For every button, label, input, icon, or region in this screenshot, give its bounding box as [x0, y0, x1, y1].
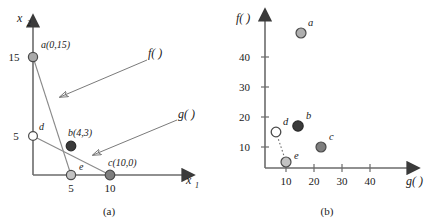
point-label-c-a: c(10,0) — [108, 157, 137, 169]
f-annotation-label: f( ) — [148, 46, 162, 60]
point-label-d-b: d — [283, 116, 289, 127]
point-b-a[interactable] — [66, 141, 76, 151]
point-a-a[interactable] — [28, 52, 37, 61]
y-axis-label-sub-a: 2 — [27, 19, 31, 28]
point-label-d-a: d — [39, 121, 45, 132]
point-b-b[interactable] — [293, 121, 303, 131]
y-tick-30-b: 30 — [239, 81, 251, 93]
point-d-b[interactable] — [271, 127, 281, 137]
y-axis-label-a: x — [16, 11, 23, 25]
point-label-c-b: c — [329, 131, 334, 142]
g-annotation-arrow — [93, 120, 177, 155]
x-tick-20-b: 20 — [309, 175, 321, 187]
point-label-e-b: e — [294, 150, 299, 161]
y-tick-20-b: 20 — [239, 111, 251, 123]
y-tick-15-a: 15 — [9, 51, 21, 63]
point-label-b-a: b(4,3) — [68, 127, 93, 139]
figure-container: x 2 x 1 15 5 5 10 f( ) g( ) — [0, 0, 436, 220]
panel-a-plot: x 2 x 1 15 5 5 10 f( ) g( ) — [0, 0, 218, 200]
point-label-a-a: a(0,15) — [41, 39, 71, 51]
y-axis-label-b: f( ) — [236, 11, 250, 25]
x-tick-40-b: 40 — [365, 175, 377, 187]
point-a-b[interactable] — [296, 28, 306, 38]
panel-a-caption: (a) — [0, 205, 218, 217]
panel-b-caption: (b) — [218, 205, 436, 217]
panel-b: f( ) g( ) 10 20 30 40 10 20 30 40 — [218, 0, 436, 220]
point-label-e-a: e — [79, 161, 84, 172]
x-tick-10-a: 10 — [105, 182, 117, 194]
panel-a: x 2 x 1 15 5 5 10 f( ) g( ) — [0, 0, 218, 220]
x-tick-5-a: 5 — [68, 182, 74, 194]
f-constraint-line — [33, 57, 71, 175]
point-e-b[interactable] — [281, 157, 291, 167]
point-e-a[interactable] — [66, 170, 75, 179]
x-tick-30-b: 30 — [337, 175, 349, 187]
panel-b-plot: f( ) g( ) 10 20 30 40 10 20 30 40 — [218, 0, 436, 200]
g-annotation-label: g( ) — [178, 107, 195, 121]
y-tick-5-a: 5 — [13, 130, 19, 142]
x-axis-label-sub-a: 1 — [195, 181, 199, 190]
point-c-a[interactable] — [105, 170, 115, 180]
y-tick-40-b: 40 — [239, 51, 251, 63]
y-tick-10-b: 10 — [239, 141, 251, 153]
x-tick-10-b: 10 — [281, 175, 293, 187]
point-c-b[interactable] — [316, 142, 326, 152]
point-label-a-b: a — [308, 17, 313, 28]
f-annotation-arrow — [60, 60, 147, 97]
point-d-a[interactable] — [29, 132, 38, 141]
x-axis-label-b: g( ) — [406, 174, 423, 188]
point-label-b-b: b — [306, 110, 311, 121]
x-axis-label-a: x — [185, 173, 192, 187]
